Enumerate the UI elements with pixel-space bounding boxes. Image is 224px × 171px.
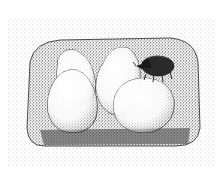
egg-front-right [113,78,174,133]
stipple-illustration [0,0,224,171]
